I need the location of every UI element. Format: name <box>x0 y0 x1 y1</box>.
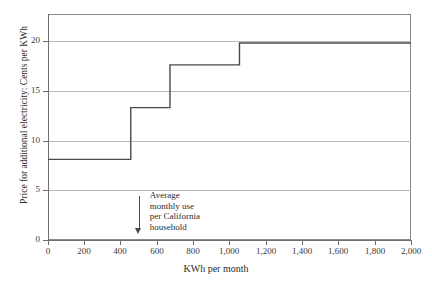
x-axis-title: KWh per month <box>0 263 432 274</box>
gridline-y-10 <box>48 141 411 142</box>
x-tick-800 <box>193 240 194 245</box>
x-tick-1200 <box>266 240 267 245</box>
x-ticklabel-1000: 1,000 <box>219 246 239 256</box>
x-tick-600 <box>157 240 158 245</box>
y-tick-5 <box>43 190 49 191</box>
x-ticklabel-600: 600 <box>150 246 164 256</box>
x-ticklabel-1400: 1,400 <box>292 246 312 256</box>
x-tick-200 <box>84 240 85 245</box>
annotation-line-4: household <box>150 222 200 233</box>
y-ticklabel-0: 0 <box>26 234 40 244</box>
plot-area-frame <box>48 14 411 240</box>
gridline-y-15 <box>48 91 411 92</box>
x-tick-0 <box>48 240 49 245</box>
average-use-arrow-shaft <box>139 196 140 230</box>
x-tick-1600 <box>338 240 339 245</box>
x-ticklabel-800: 800 <box>186 246 200 256</box>
y-axis-line <box>48 14 49 240</box>
gridline-y-20 <box>48 41 411 42</box>
x-tick-1800 <box>375 240 376 245</box>
x-tick-1400 <box>302 240 303 245</box>
x-ticklabel-1800: 1,800 <box>365 246 385 256</box>
gridline-y-5 <box>48 190 411 191</box>
x-tick-400 <box>120 240 121 245</box>
x-ticklabel-1600: 1,600 <box>328 246 348 256</box>
average-use-annotation: Average monthly use per California house… <box>150 190 200 232</box>
annotation-line-1: Average <box>150 190 200 201</box>
annotation-line-3: per California <box>150 211 200 222</box>
y-tick-15 <box>43 91 49 92</box>
y-axis-title: Price for additional electricity: Cents … <box>19 5 29 225</box>
x-tick-2000 <box>411 240 412 245</box>
x-ticklabel-200: 200 <box>77 246 91 256</box>
chart-root: 0 5 10 15 20 0 200 400 600 800 1,000 1,2… <box>0 0 432 288</box>
x-ticklabel-1200: 1,200 <box>256 246 276 256</box>
x-ticklabel-400: 400 <box>113 246 127 256</box>
y-tick-10 <box>43 141 49 142</box>
x-ticklabel-0: 0 <box>46 246 51 256</box>
x-tick-1000 <box>229 240 230 245</box>
y-tick-20 <box>43 41 49 42</box>
average-use-arrow-head <box>135 228 141 234</box>
annotation-line-2: monthly use <box>150 201 200 212</box>
x-ticklabel-2000: 2,000 <box>401 246 421 256</box>
